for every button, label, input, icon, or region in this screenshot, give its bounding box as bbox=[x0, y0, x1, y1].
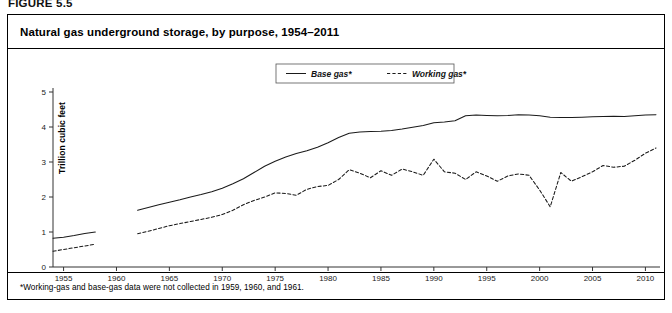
svg-text:1965: 1965 bbox=[160, 274, 178, 283]
svg-text:1985: 1985 bbox=[372, 274, 390, 283]
svg-text:Base gas*: Base gas* bbox=[311, 69, 352, 79]
svg-text:1970: 1970 bbox=[213, 274, 231, 283]
footnote-text: *Working-gas and base-gas data were not … bbox=[20, 283, 304, 292]
svg-text:2005: 2005 bbox=[584, 274, 602, 283]
svg-text:3: 3 bbox=[42, 158, 47, 167]
svg-text:1955: 1955 bbox=[55, 274, 73, 283]
svg-text:1995: 1995 bbox=[478, 274, 496, 283]
svg-text:1975: 1975 bbox=[266, 274, 284, 283]
line-chart: 0123451955196019651970197519801985199019… bbox=[8, 15, 666, 301]
svg-text:Working gas*: Working gas* bbox=[412, 69, 467, 79]
svg-text:2: 2 bbox=[42, 193, 47, 202]
svg-text:5: 5 bbox=[42, 88, 47, 97]
figure-page: FIGURE 5.5 Natural gas underground stora… bbox=[0, 0, 672, 313]
svg-text:0: 0 bbox=[42, 263, 47, 272]
svg-text:1960: 1960 bbox=[108, 274, 126, 283]
svg-text:1980: 1980 bbox=[319, 274, 337, 283]
svg-text:2010: 2010 bbox=[637, 274, 655, 283]
figure-box: Natural gas underground storage, by purp… bbox=[7, 14, 665, 300]
svg-text:2000: 2000 bbox=[531, 274, 549, 283]
footnote-divider bbox=[8, 272, 664, 273]
svg-text:1: 1 bbox=[42, 228, 47, 237]
svg-text:4: 4 bbox=[42, 123, 47, 132]
svg-text:1990: 1990 bbox=[425, 274, 443, 283]
chart-plot-area: Trillion cubic feet 01234519551960196519… bbox=[8, 15, 666, 301]
figure-number: FIGURE 5.5 bbox=[8, 0, 73, 8]
